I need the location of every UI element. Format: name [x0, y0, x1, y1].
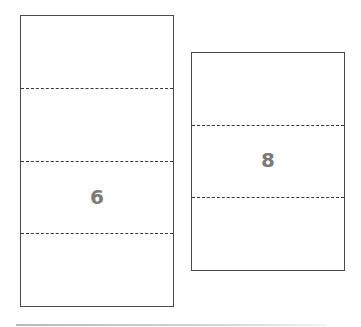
right-dashed-divider-2	[192, 197, 344, 198]
left-dashed-divider-2	[21, 161, 173, 162]
bottom-rule	[16, 324, 326, 326]
left-rectangle-label: 6	[21, 187, 173, 207]
right-rectangle: 8	[191, 52, 345, 271]
right-rectangle-label: 8	[192, 150, 344, 170]
left-dashed-divider-3	[21, 233, 173, 234]
right-dashed-divider-1	[192, 125, 344, 126]
left-rectangle: 6	[20, 15, 174, 307]
left-dashed-divider-1	[21, 88, 173, 89]
